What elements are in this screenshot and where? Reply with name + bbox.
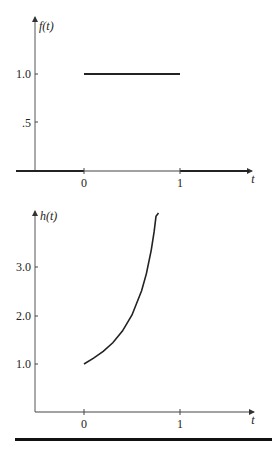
xtick-label: 0: [81, 417, 87, 431]
x-axis-label: t: [251, 172, 255, 186]
ytick-label: 3.0: [16, 260, 31, 274]
ytick-label: 1.0: [16, 67, 31, 81]
ytick-label: 2.0: [16, 309, 31, 323]
ytick-label: .5: [22, 116, 31, 130]
x-axis-label: t: [251, 413, 255, 427]
y-axis-label: h(t): [40, 209, 57, 223]
ytick-label: 1.0: [16, 357, 31, 371]
chart-f: f(t) 1.0 .5 0 1 t: [16, 17, 255, 190]
xtick-label: 0: [81, 176, 87, 190]
chart-h: h(t) 3.0 2.0 1.0 0 1 t: [16, 209, 255, 431]
xtick-label: 1: [177, 176, 183, 190]
xtick-label: 1: [177, 417, 183, 431]
figure-canvas: f(t) 1.0 .5 0 1 t h(t) 3.0 2.0 1.0 0 1 t: [0, 0, 272, 450]
h-curve: [84, 213, 159, 364]
y-axis-label: f(t): [39, 19, 54, 33]
bottom-rule: [15, 438, 272, 441]
